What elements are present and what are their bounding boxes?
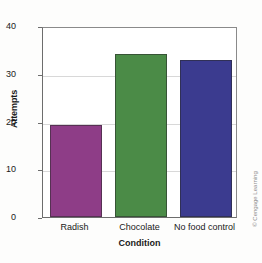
- x-axis-title: Condition: [42, 238, 237, 248]
- y-tick-mark: [38, 170, 42, 171]
- y-axis-title: Attempts: [9, 69, 19, 149]
- bar: [180, 60, 232, 217]
- y-tick-label: 30: [0, 69, 16, 79]
- bar: [50, 125, 102, 217]
- y-tick-mark: [38, 27, 42, 28]
- y-tick-label: 20: [0, 117, 16, 127]
- y-tick-label: 0: [0, 212, 16, 222]
- y-tick-label: 10: [0, 164, 16, 174]
- copyright-credit: © Cengage Learning: [252, 144, 258, 254]
- y-tick-mark: [38, 75, 42, 76]
- y-tick-mark: [38, 218, 42, 219]
- y-tick-label: 40: [0, 21, 16, 31]
- bar-chart-figure: Attempts Condition © Cengage Learning 01…: [0, 0, 262, 263]
- x-tick-label: No food control: [155, 222, 255, 232]
- bar: [115, 54, 167, 217]
- y-tick-mark: [38, 123, 42, 124]
- plot-area: [42, 27, 237, 218]
